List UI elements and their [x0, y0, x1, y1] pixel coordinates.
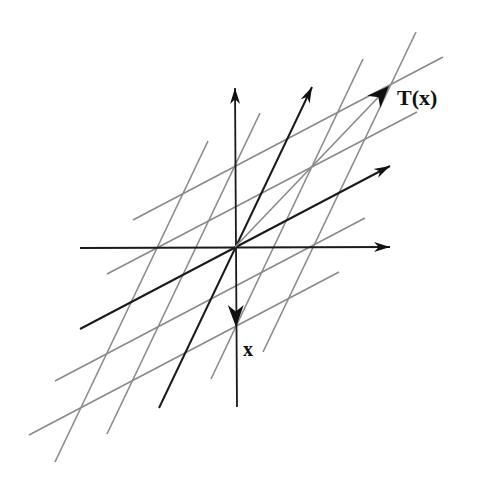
vector-x: x: [228, 305, 253, 360]
vector-Tx: T(x): [235, 85, 437, 247]
tx-vector-line: [235, 86, 389, 247]
image-basis-arrowhead-icon: [374, 166, 390, 178]
tx-label: T(x): [397, 85, 437, 110]
linear-transformation-diagram: T(x) x: [0, 0, 486, 477]
x-label: x: [243, 338, 253, 360]
grid-line-steep: [211, 59, 363, 379]
